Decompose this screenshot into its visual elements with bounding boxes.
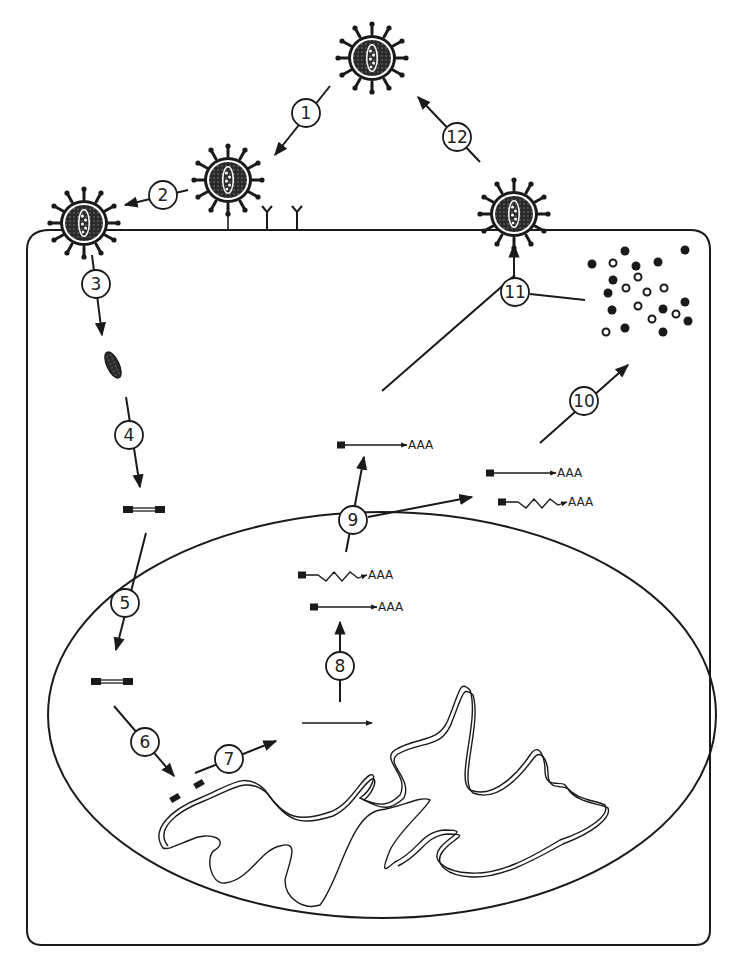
svg-text:12: 12 xyxy=(446,127,468,147)
svg-text:7: 7 xyxy=(224,749,235,769)
svg-text:AAA: AAA xyxy=(408,438,434,452)
step-2-badge: 2 xyxy=(149,181,177,209)
svg-text:11: 11 xyxy=(504,282,526,302)
step-8-badge: 8 xyxy=(326,652,354,680)
mrna-cytoplasm-spliced: AAA xyxy=(498,495,594,509)
svg-text:3: 3 xyxy=(91,274,102,294)
virus-entering xyxy=(47,186,120,259)
svg-text:9: 9 xyxy=(348,510,359,530)
step-12-badge: 12 xyxy=(443,123,471,151)
mrna-cytoplasm-right: AAA xyxy=(486,466,583,480)
mrna-nucleus-straight: AAA xyxy=(310,600,404,614)
svg-text:AAA: AAA xyxy=(368,568,394,582)
cell-receptors xyxy=(262,206,302,230)
viral-life-cycle-diagram: 1 2 3 4 5 6 7 8 9 10 11 12 xyxy=(0,0,734,971)
svg-text:1: 1 xyxy=(301,103,312,123)
svg-text:AAA: AAA xyxy=(557,466,583,480)
step-3-badge: 3 xyxy=(82,270,110,298)
free-virus-top xyxy=(335,21,408,94)
svg-text:AAA: AAA xyxy=(568,495,594,509)
step-1-badge: 1 xyxy=(292,99,320,127)
viral-proteins xyxy=(588,246,693,337)
virus-budding xyxy=(477,177,550,250)
step-5-badge: 5 xyxy=(111,589,139,617)
svg-text:AAA: AAA xyxy=(378,600,404,614)
mrna-nucleus-spliced: AAA xyxy=(298,568,394,582)
svg-text:2: 2 xyxy=(158,185,169,205)
step-10-badge: 10 xyxy=(570,387,598,415)
integrated-provirus xyxy=(169,779,205,803)
cell-membrane xyxy=(27,230,710,945)
viral-dna-nucleus xyxy=(91,678,133,685)
svg-text:10: 10 xyxy=(573,391,595,411)
viral-dna-cytoplasm xyxy=(123,506,165,513)
step-6-badge: 6 xyxy=(131,728,159,756)
step-7-badge: 7 xyxy=(215,745,243,773)
capsid-core xyxy=(102,350,125,380)
step-9-badge: 9 xyxy=(339,506,367,534)
svg-text:5: 5 xyxy=(120,593,131,613)
step-11-badge: 11 xyxy=(501,278,529,306)
step-4-badge: 4 xyxy=(115,421,143,449)
host-chromosome xyxy=(159,686,609,906)
svg-text:8: 8 xyxy=(335,656,346,676)
mrna-cytoplasm-upper: AAA xyxy=(337,438,434,452)
svg-text:4: 4 xyxy=(124,425,135,445)
svg-text:6: 6 xyxy=(140,732,151,752)
